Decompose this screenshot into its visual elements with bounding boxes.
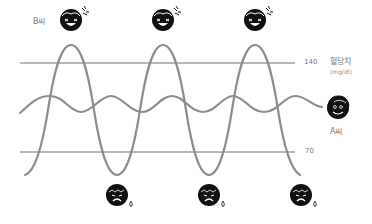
axis-unit: (mg/dl) bbox=[330, 69, 352, 75]
excited-face-icon bbox=[244, 6, 273, 31]
axis-title: 혈당치 bbox=[330, 58, 351, 66]
sad-crying-face-icon bbox=[198, 184, 224, 207]
series-b-curve bbox=[25, 45, 300, 175]
sad-crying-face-icon bbox=[290, 184, 316, 207]
value-label-70: 70 bbox=[305, 148, 314, 155]
value-label-140: 140 bbox=[304, 59, 317, 66]
person-b-label: B씨 bbox=[33, 18, 46, 26]
person-a-label: A씨 bbox=[330, 128, 342, 136]
calm-smiling-face-icon bbox=[327, 96, 349, 119]
diagram-canvas bbox=[0, 0, 372, 224]
excited-face-icon bbox=[152, 6, 181, 31]
blood-sugar-diagram: B씨 140 혈당치 (mg/dl) A씨 70 bbox=[0, 0, 372, 224]
excited-face-icon bbox=[60, 6, 89, 31]
sad-crying-face-icon bbox=[106, 184, 132, 207]
